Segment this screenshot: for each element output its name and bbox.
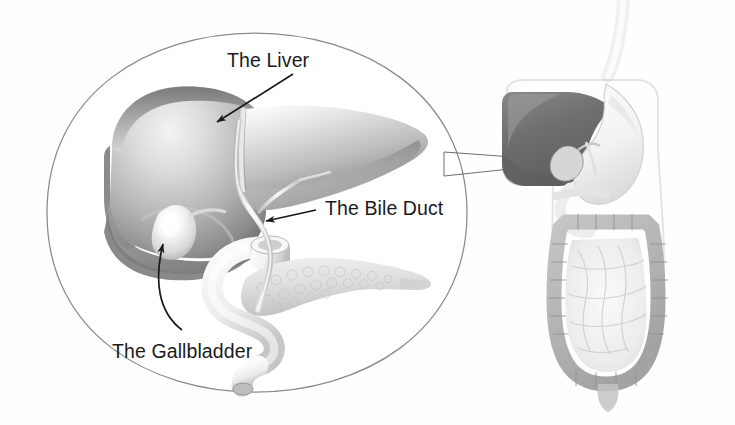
label-gallbladder: The Gallbladder	[112, 340, 252, 363]
label-bile-duct: The Bile Duct	[325, 197, 443, 220]
body-diagram	[502, 0, 668, 412]
duodenum-lower-cut-end	[233, 383, 253, 395]
body-pancreas	[556, 192, 606, 196]
illustration-canvas: The Liver The Bile Duct The Gallbladder	[0, 0, 735, 425]
label-liver: The Liver	[227, 49, 309, 72]
body-rectum	[597, 384, 618, 412]
